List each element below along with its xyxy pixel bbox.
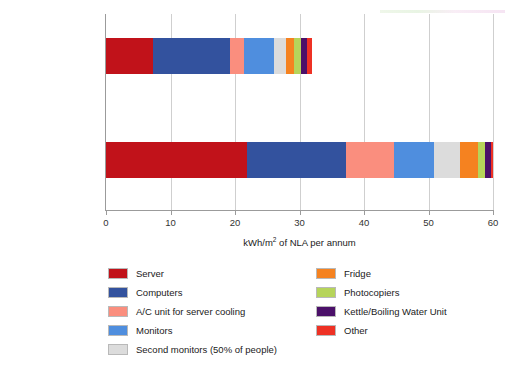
- legend-label: Other: [344, 325, 368, 336]
- chart-page: kWh/m2 of NLA per annum 0102030405060Wor…: [0, 0, 505, 379]
- legend-label: Monitors: [136, 325, 172, 336]
- legend-item[interactable]: Computers: [108, 285, 313, 299]
- legend-swatch-icon: [108, 287, 128, 298]
- x-axis-tick-label: 10: [165, 217, 176, 228]
- x-axis-tick: [171, 210, 172, 215]
- x-axis-tick-label: 20: [230, 217, 241, 228]
- legend-swatch-icon: [108, 325, 128, 336]
- x-axis-title: kWh/m2 of NLA per annum: [106, 236, 493, 248]
- legend-label: Computers: [136, 287, 182, 298]
- legend-label: Server: [136, 268, 164, 279]
- legend-item[interactable]: Server: [108, 266, 313, 280]
- bar-segment: [106, 38, 153, 74]
- legend-label: Second monitors (50% of people): [136, 344, 277, 355]
- x-axis-tick-label: 40: [359, 217, 370, 228]
- bar-segment: [307, 38, 312, 74]
- plot-area: kWh/m2 of NLA per annum 0102030405060Wor…: [0, 0, 505, 236]
- legend-label: A/C unit for server cooling: [136, 306, 245, 317]
- bar-segment: [434, 142, 460, 178]
- bar-segment: [230, 38, 244, 74]
- legend-item[interactable]: Monitors: [108, 323, 313, 337]
- x-axis-title-post: of NLA per annum: [276, 237, 355, 248]
- gridline: [493, 14, 494, 210]
- legend-swatch-icon: [316, 306, 336, 317]
- stacked-bar: [106, 38, 312, 74]
- legend-swatch-icon: [316, 287, 336, 298]
- plot-canvas: kWh/m2 of NLA per annum 0102030405060Wor…: [105, 14, 493, 211]
- bar-segment: [247, 142, 346, 178]
- legend-column-right: FridgePhotocopiersKettle/Boiling Water U…: [316, 266, 505, 337]
- x-axis-tick: [300, 210, 301, 215]
- legend-item[interactable]: Photocopiers: [316, 285, 505, 299]
- legend-column-left: ServerComputersA/C unit for server cooli…: [108, 266, 313, 356]
- bar-segment: [346, 142, 394, 178]
- x-axis-tick-label: 50: [423, 217, 434, 228]
- x-axis-title-pre: kWh/m: [243, 237, 273, 248]
- x-axis-tick: [429, 210, 430, 215]
- x-axis-tick: [106, 210, 107, 215]
- legend-label: Fridge: [344, 268, 371, 279]
- legend-swatch-icon: [108, 306, 128, 317]
- bar-segment: [106, 142, 247, 178]
- x-axis-tick: [235, 210, 236, 215]
- bar-segment: [274, 38, 286, 74]
- gridline: [364, 14, 365, 210]
- legend-swatch-icon: [316, 325, 336, 336]
- bar-segment: [394, 142, 434, 178]
- legend-item[interactable]: Fridge: [316, 266, 505, 280]
- legend: ServerComputersA/C unit for server cooli…: [108, 266, 498, 370]
- x-axis-tick: [493, 210, 494, 215]
- bar-segment: [460, 142, 478, 178]
- legend-item[interactable]: Other: [316, 323, 505, 337]
- legend-label: Kettle/Boiling Water Unit: [344, 306, 447, 317]
- x-axis-tick-label: 30: [294, 217, 305, 228]
- legend-swatch-icon: [316, 268, 336, 279]
- bar-segment: [244, 38, 274, 74]
- x-axis-tick-label: 60: [488, 217, 499, 228]
- bar-segment: [294, 38, 301, 74]
- bar-segment: [491, 142, 493, 178]
- legend-item[interactable]: Second monitors (50% of people): [108, 342, 313, 356]
- stacked-bar: [106, 142, 493, 178]
- x-axis-tick-label: 0: [103, 217, 108, 228]
- gridline: [429, 14, 430, 210]
- bar-segment: [478, 142, 485, 178]
- legend-item[interactable]: A/C unit for server cooling: [108, 304, 313, 318]
- bar-segment: [153, 38, 230, 74]
- x-axis-tick: [364, 210, 365, 215]
- bar-segment: [286, 38, 294, 74]
- legend-swatch-icon: [108, 268, 128, 279]
- legend-item[interactable]: Kettle/Boiling Water Unit: [316, 304, 505, 318]
- legend-label: Photocopiers: [344, 287, 399, 298]
- legend-swatch-icon: [108, 344, 128, 355]
